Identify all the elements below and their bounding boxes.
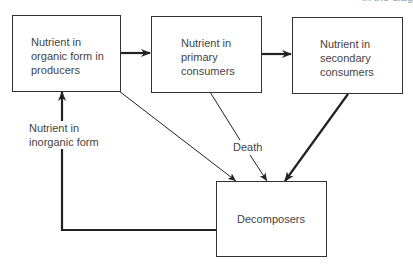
node-secondary-label: Nutrient in secondary consumers xyxy=(320,37,395,79)
node-producers: Nutrient in organic form in producers xyxy=(12,15,121,92)
arrow-decomposers-to-producers xyxy=(62,92,216,230)
edge-label-death: Death xyxy=(233,140,262,154)
node-decomposers: Decomposers xyxy=(216,181,327,257)
node-producers-label: Nutrient in organic form in producers xyxy=(31,35,115,77)
arrow-secondary-to-decomposers xyxy=(285,94,348,181)
node-primary-label: Nutrient in primary consumers xyxy=(181,36,256,78)
node-secondary-consumers: Nutrient in secondary consumers xyxy=(292,17,403,94)
arrow-producers-to-decomposers xyxy=(119,91,236,181)
node-decomposers-label: Decomposers xyxy=(217,212,325,226)
edge-label-inorganic: Nutrient in inorganic form xyxy=(29,121,99,149)
arrow-death-to-decomposers xyxy=(250,155,267,181)
line-primary-to-death xyxy=(210,92,240,140)
node-primary-consumers: Nutrient in primary consumers xyxy=(151,16,262,93)
